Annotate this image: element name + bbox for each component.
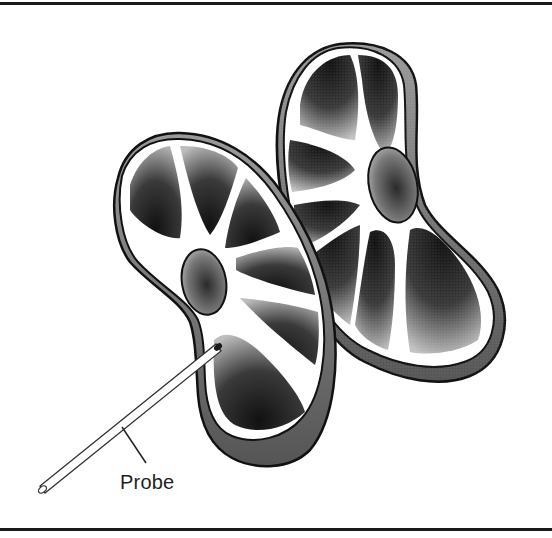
probe-label: Probe bbox=[120, 471, 174, 494]
kidney-illustration bbox=[0, 0, 552, 538]
probe-leader-line bbox=[122, 427, 146, 463]
